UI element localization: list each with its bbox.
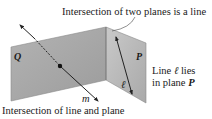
right-caption-suffix: lies xyxy=(178,65,195,76)
top-caption: Intersection of two planes is a line xyxy=(62,6,206,17)
line-l-label: ℓ xyxy=(121,79,125,90)
right-caption-line1: Line ℓ lies xyxy=(152,65,195,77)
plane-p-label: P xyxy=(136,51,142,62)
intersection-point xyxy=(58,64,62,68)
line-m-label: m xyxy=(82,93,90,104)
bottom-caption: Intersection of line and plane xyxy=(2,105,124,116)
right-caption-prefix2: in plane xyxy=(152,77,188,88)
right-caption: Line ℓ lies in plane P xyxy=(152,65,195,89)
right-caption-line2: in plane P xyxy=(152,77,195,89)
plane-p-symbol: P xyxy=(188,77,194,88)
right-caption-prefix: Line xyxy=(152,65,174,76)
caption-leader xyxy=(112,17,135,31)
plane-q-label: Q xyxy=(14,51,21,62)
planes-diagram xyxy=(0,0,212,119)
plane-p xyxy=(106,27,146,103)
line-m-upper xyxy=(20,25,34,38)
